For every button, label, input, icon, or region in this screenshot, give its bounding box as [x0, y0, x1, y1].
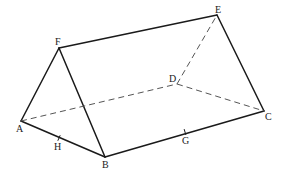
edge-bc: [105, 111, 264, 157]
label-e: E: [215, 4, 221, 15]
hidden-edge-dc: [177, 84, 264, 111]
label-d: D: [169, 73, 176, 84]
edge-fa: [21, 48, 59, 121]
prism-diagram: ABCDEFHG: [0, 0, 286, 176]
label-a: A: [16, 123, 24, 134]
prism-svg: ABCDEFHG: [0, 0, 286, 176]
edge-fe: [59, 15, 217, 48]
label-c: C: [265, 111, 272, 122]
label-b: B: [102, 159, 109, 170]
hidden-edge-de: [177, 15, 217, 84]
label-h: H: [54, 141, 61, 152]
edge-ec: [217, 15, 264, 111]
label-f: F: [55, 36, 61, 47]
hidden-edge-ad: [21, 84, 177, 121]
label-g: G: [182, 135, 189, 146]
